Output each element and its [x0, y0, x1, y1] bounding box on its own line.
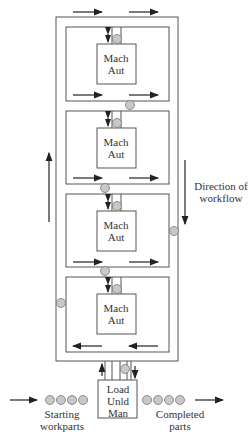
direction-label-line1: Direction of	[190, 180, 252, 192]
machine-label-line2: Aut	[96, 64, 136, 76]
machine-label-line1: Mach	[96, 52, 136, 64]
starting-workparts-label: Starting workparts	[34, 408, 90, 432]
direction-label: Direction of workflow	[190, 180, 252, 204]
machine-label-line1: Mach	[96, 219, 136, 231]
load-label-line1: Load	[98, 383, 138, 395]
machine-label-1: Mach Aut	[96, 52, 136, 76]
load-label-line2: Unld	[98, 395, 138, 407]
completed-label-line2: parts	[150, 420, 210, 432]
machine-label-4: Mach Aut	[96, 302, 136, 326]
machine-label-2: Mach Aut	[96, 136, 136, 160]
completed-label-line1: Completed	[150, 408, 210, 420]
machine-label-line2: Aut	[96, 314, 136, 326]
machine-label-line1: Mach	[96, 302, 136, 314]
direction-label-line2: workflow	[190, 192, 252, 204]
machine-label-line1: Mach	[96, 136, 136, 148]
machine-label-line2: Aut	[96, 148, 136, 160]
machine-label-3: Mach Aut	[96, 219, 136, 243]
machine-label-line2: Aut	[96, 231, 136, 243]
load-station-label: Load Unld Man	[98, 383, 138, 419]
starting-label-line2: workparts	[34, 420, 90, 432]
load-label-line3: Man	[98, 407, 138, 419]
starting-label-line1: Starting	[34, 408, 90, 420]
completed-parts-label: Completed parts	[150, 408, 210, 432]
